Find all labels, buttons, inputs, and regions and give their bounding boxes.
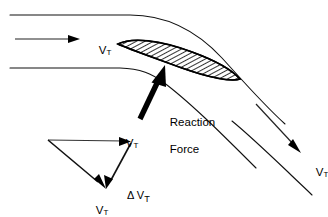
reaction-force-line2: Force (170, 143, 199, 155)
reaction-force-label: Reaction Force (157, 102, 215, 170)
triangle-bottom-velocity-label: VT (83, 191, 108, 217)
outlet-velocity-label: VT (303, 153, 328, 194)
triangle-left-arrow (48, 140, 106, 189)
airfoil-shape (110, 30, 250, 90)
inlet-velocity-label: VT (86, 31, 111, 72)
delta-velocity-line1: Δ VT (127, 189, 189, 206)
delta-velocity-label: Δ VT Change in Velocity (127, 164, 189, 217)
triangle-top-velocity-label: VT (113, 124, 138, 165)
reaction-force-line1: Reaction (170, 116, 215, 128)
airfoil-hatching (110, 30, 250, 90)
fluid-flow-reaction-force-diagram: VT Reaction Force VT VT VT Δ VT Change i… (0, 0, 328, 217)
outlet-velocity-arrow (256, 104, 301, 153)
inlet-velocity-arrow (15, 35, 80, 43)
streamline-lower-outer (232, 121, 312, 195)
